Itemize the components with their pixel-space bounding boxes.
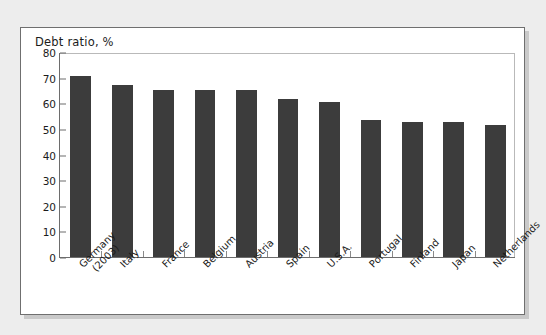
y-tick-label: 30 [43, 175, 56, 187]
y-tick-mark [60, 104, 66, 105]
bar [278, 99, 299, 257]
y-tick-mark [60, 155, 66, 156]
y-tick-label: 10 [43, 226, 56, 238]
bar [402, 122, 423, 257]
figure-root: Debt ratio, % 01020304050607080 Germany(… [0, 0, 546, 335]
bar [485, 125, 506, 257]
y-tick-mark [60, 258, 66, 259]
y-tick-label: 20 [43, 201, 56, 213]
y-tick-mark [60, 129, 66, 130]
y-tick-label: 80 [43, 47, 56, 59]
x-tick-mark [143, 251, 144, 257]
y-tick-label: 40 [43, 150, 56, 162]
y-tick-label: 70 [43, 73, 56, 85]
chart-panel: Debt ratio, % 01020304050607080 Germany(… [20, 27, 525, 315]
bar [195, 90, 216, 257]
y-tick-mark [60, 232, 66, 233]
bar [319, 102, 340, 257]
y-tick-label: 50 [43, 124, 56, 136]
plot-area: 01020304050607080 Germany(2003)ItalyFran… [59, 53, 515, 258]
y-tick-mark [60, 181, 66, 182]
bar [112, 85, 133, 257]
bar [70, 76, 91, 257]
bar [153, 90, 174, 257]
y-tick-mark [60, 206, 66, 207]
y-tick-mark [60, 53, 66, 54]
bar [361, 120, 382, 257]
y-tick-label: 60 [43, 98, 56, 110]
y-tick-label: 0 [49, 252, 56, 264]
bar [443, 122, 464, 257]
y-tick-mark [60, 78, 66, 79]
bar [236, 90, 257, 257]
